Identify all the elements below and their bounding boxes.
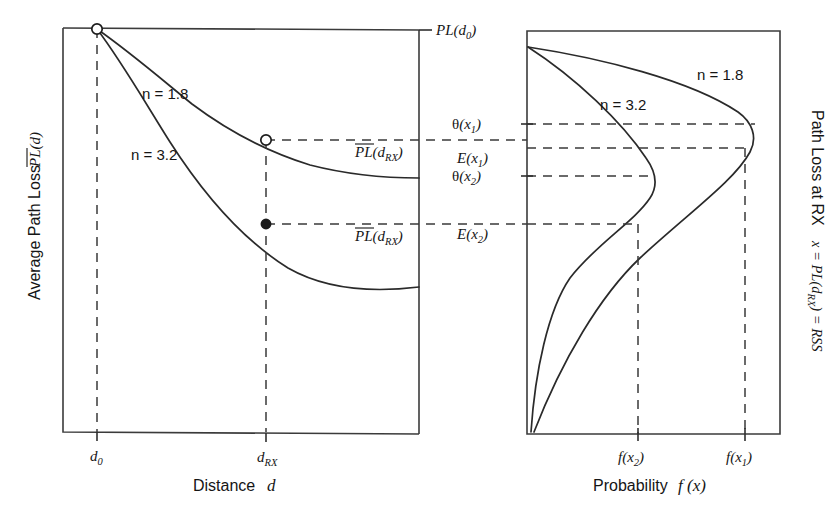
ylabel-e-x1: E(x1)	[456, 150, 488, 169]
label-plbar-n18-open: (d	[373, 144, 386, 161]
marker-d0-origin	[92, 24, 102, 34]
ylabel-theta-x2: θ(x2)	[452, 168, 481, 187]
label-plbar-n18-base: PL	[354, 144, 373, 160]
svg-text:PL(d0): PL(d0)	[435, 22, 476, 41]
label-pl-d0: PL(d0)	[435, 22, 476, 41]
ylabel-e-x1-base: E	[456, 150, 466, 166]
xlabel-fx1-open: (x	[730, 449, 742, 466]
right-x-title-math: f (x)	[678, 476, 706, 495]
right-panel: n = 1.8 n = 3.2 θ(x1) E(x1) θ(x2) E(x2) …	[452, 31, 826, 495]
svg-text:PL(dRX): PL(dRX)	[354, 228, 403, 247]
label-plbar-n32-base: PL	[354, 228, 373, 244]
marker-drx-n18	[261, 135, 271, 145]
label-pl-d0-close: )	[470, 22, 476, 39]
svg-text:PL(dRX): PL(dRX)	[354, 144, 403, 163]
right-x-title-prefix: Probability	[593, 477, 668, 494]
left-x-title-math: d	[267, 476, 276, 495]
left-y-title-math: PL	[27, 149, 43, 168]
annotation-left-n32: n = 3.2	[131, 146, 177, 163]
xtick-label-drx-sub: RX	[264, 457, 278, 468]
ylabel-theta-x1: θ(x1)	[452, 116, 481, 135]
right-y-title-prefix: Path Loss at RX	[809, 110, 826, 226]
ylabel-e-x2: E(x2)	[456, 226, 488, 245]
ylabel-theta-x1-base: θ	[452, 116, 459, 132]
xtick-label-d0: d0	[90, 448, 104, 467]
marker-drx-n32	[261, 219, 270, 228]
right-panel-x-axis-title: Probability f (x)	[593, 476, 706, 495]
right-y-title-math: x = PL(d	[808, 240, 825, 294]
right-y-title-sub: RX	[806, 292, 817, 306]
ylabel-e-x2-close: )	[482, 226, 488, 243]
xlabel-fx1-close: )	[746, 449, 752, 466]
left-panel-top-line	[63, 28, 419, 30]
right-y-title-tail: ) = RSS	[808, 305, 825, 352]
ylabel-theta-x1-open: (x	[459, 116, 471, 133]
annotation-right-n32: n = 3.2	[600, 96, 646, 113]
left-panel-x-axis-title: Distance d	[193, 476, 276, 495]
xtick-label-d0-sub: 0	[98, 456, 104, 467]
annotation-left-n18: n = 1.8	[142, 85, 188, 102]
label-pl-d0-open: (d	[454, 22, 467, 39]
label-plbar-drx-n18: PL(dRX)	[354, 144, 403, 163]
left-y-title-arg: (d)	[27, 132, 44, 150]
ylabel-theta-x2-base: θ	[452, 168, 459, 184]
label-plbar-n32-close: )	[397, 228, 403, 245]
figure-svg: n = 1.8 n = 3.2 PL(d0) PL(dRX) PL(dRX)	[0, 0, 838, 522]
ylabel-e-x2-base: E	[456, 226, 466, 242]
xtick-label-drx: dRX	[257, 449, 278, 468]
label-plbar-n32-sub: RX	[384, 236, 398, 247]
ylabel-theta-x1-close: )	[475, 116, 481, 133]
right-y-title-math-group: x = PL(dRX) = RSS	[806, 240, 825, 352]
xlabel-fx1: f(x1)	[726, 449, 752, 468]
right-panel-frame	[527, 31, 780, 434]
ylabel-e-x1-close: )	[482, 150, 488, 167]
label-plbar-drx-n32: PL(dRX)	[354, 228, 403, 247]
ylabel-e-x2-open: (x	[466, 226, 478, 243]
ylabel-theta-x2-close: )	[475, 168, 481, 185]
ylabel-e-x1-open: (x	[466, 150, 478, 167]
left-y-title-prefix: Average Path Loss	[26, 165, 43, 300]
label-plbar-n18-sub: RX	[384, 152, 398, 163]
annotation-right-n18: n = 1.8	[697, 66, 743, 83]
left-x-title-prefix: Distance	[193, 477, 255, 494]
figure-container: n = 1.8 n = 3.2 PL(d0) PL(dRX) PL(dRX)	[0, 0, 838, 522]
label-plbar-n32-open: (d	[373, 228, 386, 245]
left-panel: n = 1.8 n = 3.2 PL(d0) PL(dRX) PL(dRX)	[26, 22, 527, 495]
label-plbar-n18-close: )	[397, 144, 403, 161]
right-panel-y-axis-title: Path Loss at RX x = PL(dRX) = RSS	[806, 110, 826, 352]
xlabel-fx2-close: )	[638, 449, 644, 466]
label-pl-d0-base: PL	[435, 22, 454, 38]
left-y-title-math-group: PL(d)	[27, 132, 44, 168]
xlabel-fx2: f(x2)	[618, 449, 644, 468]
ylabel-theta-x2-open: (x	[459, 168, 471, 185]
xlabel-fx2-open: (x	[622, 449, 634, 466]
left-panel-y-axis-title: Average Path Loss PL(d)	[26, 132, 44, 300]
